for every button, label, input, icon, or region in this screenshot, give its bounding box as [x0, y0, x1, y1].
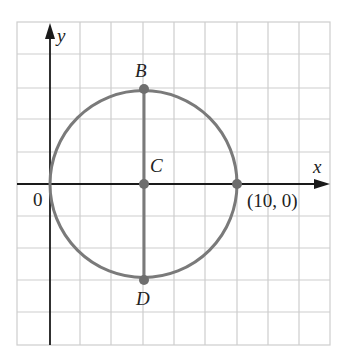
- point-d: [139, 275, 149, 285]
- origin-label: 0: [33, 189, 43, 210]
- x-axis-label: x: [312, 156, 322, 177]
- point-b: [139, 84, 149, 94]
- y-axis-arrow-icon: [45, 23, 55, 39]
- point-d-label: D: [135, 288, 150, 309]
- coordinate-plane: y x 0 B C D (10, 0): [0, 0, 340, 363]
- x-axis-arrow-icon: [314, 179, 330, 189]
- point-10-0-label: (10, 0): [247, 190, 298, 212]
- point-c: [139, 179, 149, 189]
- point-10-0: [232, 179, 242, 189]
- y-axis-label: y: [55, 25, 66, 46]
- point-b-label: B: [135, 60, 147, 81]
- point-c-label: C: [150, 155, 163, 176]
